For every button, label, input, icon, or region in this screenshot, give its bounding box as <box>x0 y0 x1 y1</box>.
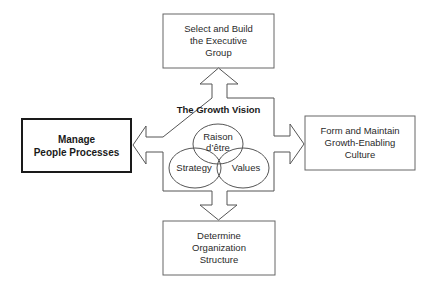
strategy-label: Strategy <box>172 162 216 173</box>
right-box-label: Form and Maintain Growth-Enabling Cultur… <box>305 116 415 170</box>
left-box-label: Manage People Processes <box>22 119 131 172</box>
bottom-box-label: Determine Organization Structure <box>163 221 275 275</box>
top-box-label: Select and Build the Executive Group <box>163 14 274 68</box>
values-label: Values <box>225 162 267 173</box>
growth-vision-title: The Growth Vision <box>163 104 274 115</box>
raison-label: Raison d’être <box>193 131 243 153</box>
